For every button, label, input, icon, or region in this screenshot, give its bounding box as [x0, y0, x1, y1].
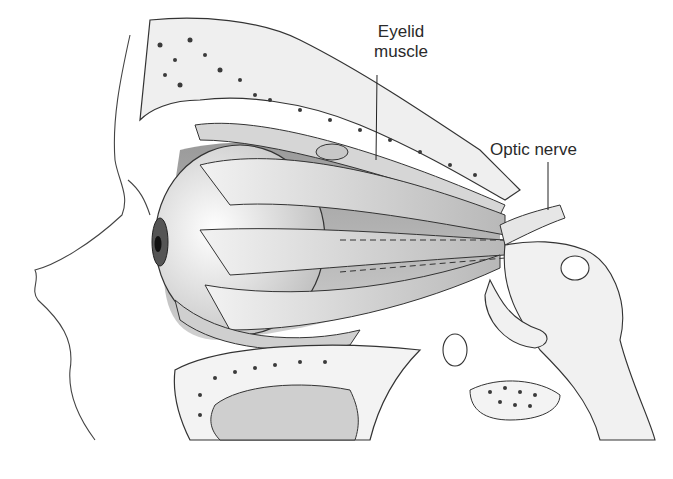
face-outline: [35, 35, 150, 440]
optic-nerve: [500, 205, 565, 245]
eyelid-muscle-label: Eyelid muscle: [366, 22, 436, 62]
pupil: [155, 236, 162, 252]
lacrimal-gland: [316, 144, 348, 160]
eyelid-muscle-label-line1: Eyelid: [366, 22, 436, 42]
eye-orbit-illustration: [0, 0, 673, 479]
eyelid-muscle-label-line2: muscle: [366, 42, 436, 62]
optic-nerve-label: Optic nerve: [490, 140, 577, 160]
lower-orbital-bone: [174, 345, 560, 440]
